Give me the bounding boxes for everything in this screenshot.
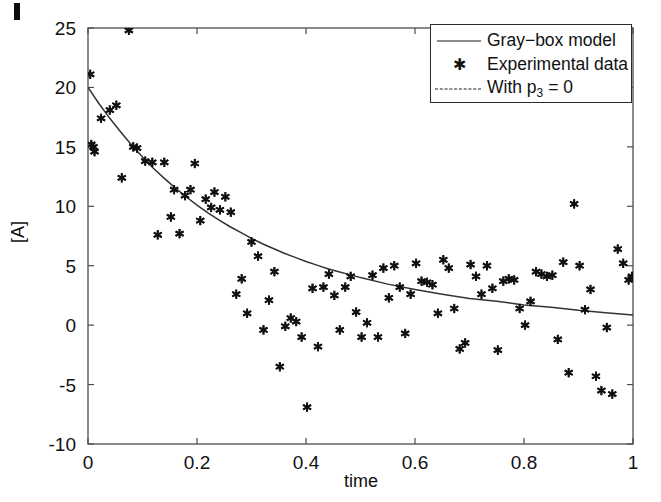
legend-key-solid-line (431, 30, 487, 52)
y-tick-label-7: -10 (0, 435, 76, 454)
legend-label-experimental-data: Experimental data (487, 56, 628, 74)
y-tick-label-2: 15 (0, 137, 76, 156)
legend-entry-gray-box-model: Gray−box model (431, 29, 631, 53)
y-tick-label-6: -5 (0, 375, 76, 394)
legend-key-star-marker: ✱ (431, 54, 487, 76)
x-tick-label-4: 0.8 (511, 453, 537, 472)
legend-label-with-p3-zero-head: With p (487, 77, 537, 97)
x-tick-label-5: 1 (628, 453, 639, 472)
asterisk-marker-icon: ✱ (453, 57, 466, 73)
plot-legend: Gray−box model ✱ Experimental data With … (430, 24, 632, 103)
legend-entry-with-p3-zero: With p3 = 0 (431, 77, 631, 101)
dashed-line-icon (435, 89, 481, 90)
legend-label-with-p3-zero-tail: = 0 (543, 77, 573, 97)
legend-entry-experimental-data: ✱ Experimental data (431, 53, 631, 77)
x-axis-title: time (344, 472, 378, 490)
y-tick-label-4: 5 (0, 256, 76, 275)
y-tick-label-3: 10 (0, 197, 76, 216)
x-tick-label-1: 0.2 (184, 453, 210, 472)
y-tick-label-5: 0 (0, 316, 76, 335)
legend-label-gray-box-model: Gray−box model (487, 32, 616, 50)
x-tick-label-2: 0.4 (293, 453, 319, 472)
y-tick-label-0: 25 (0, 19, 76, 38)
legend-key-dashed-line (431, 78, 487, 100)
x-tick-label-3: 0.6 (402, 453, 428, 472)
y-axis-title: [A] (9, 221, 27, 243)
figure-container: [A] time 2520151050-5-1000.20.40.60.81 G… (0, 0, 661, 502)
solid-line-icon (437, 41, 481, 42)
legend-label-with-p3-zero: With p3 = 0 (487, 79, 573, 99)
x-tick-label-0: 0 (83, 453, 94, 472)
y-tick-label-1: 20 (0, 78, 76, 97)
